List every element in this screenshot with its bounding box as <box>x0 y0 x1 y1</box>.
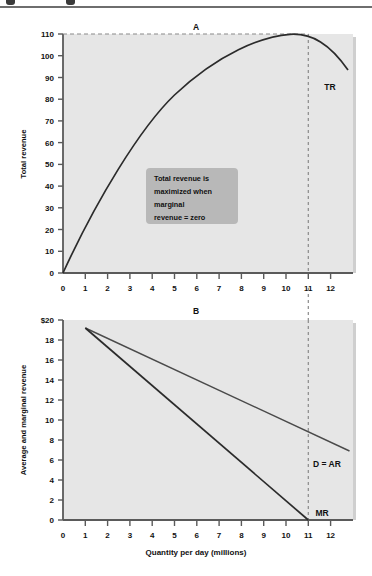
panel-b-x-tick-labels: 0 1 2 3 4 5 6 7 8 9 10 11 12 <box>61 531 336 540</box>
cropped-glyph-2 <box>66 0 75 5</box>
panel-a-ytick-30: 30 <box>45 204 54 213</box>
panel-b-ytick-18: 18 <box>45 336 54 345</box>
panel-b-x-ticks <box>85 520 330 526</box>
panel-b-ytick-12: 12 <box>45 396 54 405</box>
panel-a-letter: A <box>193 22 199 32</box>
panel-b-shadow-right <box>353 323 356 520</box>
panel-b-plot-background <box>63 320 353 520</box>
panel-b-ytick-10: 10 <box>45 416 54 425</box>
panel-b-mr-label: MR <box>315 508 328 518</box>
panel-b-xtick-5: 5 <box>172 531 177 540</box>
panel-b-xtick-6: 6 <box>195 531 200 540</box>
panel-a-ytick-70: 70 <box>45 117 54 126</box>
panel-a-ytick-20: 20 <box>45 226 54 235</box>
panel-b-xtick-7: 7 <box>217 531 222 540</box>
panel-b-xtick-1: 1 <box>83 531 88 540</box>
page-header-rule <box>0 0 372 8</box>
panel-b-xtick-0: 0 <box>61 531 66 540</box>
panel-b-xtick-2: 2 <box>105 531 110 540</box>
panel-a-annotation-line-3: marginal <box>154 200 184 209</box>
panel-a-shadow-right <box>353 37 356 273</box>
panel-b-ytick-0: 0 <box>50 516 55 525</box>
figure-container: A 0 10 20 30 40 50 60 70 <box>0 0 372 576</box>
panel-a-y-tick-labels: 0 10 20 30 40 50 60 70 80 90 100 110 <box>41 30 55 278</box>
panel-a-ytick-100: 100 <box>41 52 55 61</box>
panel-a-annotation-line-4: revenue = zero <box>154 213 206 222</box>
panel-a-ytick-90: 90 <box>45 74 54 83</box>
panel-b-xtick-10: 10 <box>282 531 291 540</box>
panel-a-ytick-40: 40 <box>45 182 54 191</box>
panel-a-ytick-110: 110 <box>41 30 54 39</box>
panel-a-annotation-line-2: maximized when <box>154 187 212 196</box>
panel-b-ytick-4: 4 <box>50 476 55 485</box>
panel-a-annotation-line-1: Total revenue is <box>154 174 209 183</box>
panel-a-tr-label: TR <box>324 82 335 92</box>
panel-b-letter: B <box>193 306 199 316</box>
panel-b-ytick-8: 8 <box>50 436 55 445</box>
panel-a-ytick-0: 0 <box>50 269 55 278</box>
panel-b-xtick-3: 3 <box>128 531 133 540</box>
panel-b-xtick-9: 9 <box>261 531 266 540</box>
panel-b-ytick-20: $20 <box>41 316 55 325</box>
panel-b-y-tick-labels: 0 2 4 6 8 10 12 14 16 18 $20 <box>41 316 55 525</box>
panel-a-ytick-60: 60 <box>45 139 54 148</box>
panel-a-plot-background <box>63 34 353 273</box>
panel-b-demand-label: D = AR <box>313 459 341 469</box>
panel-a-annotation: Total revenue is maximized when marginal… <box>146 168 238 224</box>
panel-b-y-axis-title: Average and marginal revenue <box>19 365 28 475</box>
panel-b-ytick-2: 2 <box>50 496 55 505</box>
panel-b-ytick-14: 14 <box>45 376 54 385</box>
panel-b-ytick-16: 16 <box>45 356 54 365</box>
panel-b-chart: B 0 2 4 6 8 10 12 14 16 18 <box>0 288 372 576</box>
panel-b-ytick-6: 6 <box>50 456 55 465</box>
panel-b-xtick-8: 8 <box>239 531 244 540</box>
panel-a-y-axis-title: Total revenue <box>19 130 28 179</box>
panel-a-ytick-50: 50 <box>45 160 54 169</box>
panel-b-xtick-4: 4 <box>150 531 155 540</box>
panel-b-x-axis-title: Quantity per day (millions) <box>146 548 247 557</box>
panel-a-chart: A 0 10 20 30 40 50 60 70 <box>0 8 372 298</box>
panel-b-xtick-11: 11 <box>304 531 313 540</box>
panel-a-ytick-80: 80 <box>45 95 54 104</box>
panel-a-ytick-10: 10 <box>45 247 54 256</box>
panel-b-xtick-12: 12 <box>326 531 335 540</box>
cropped-glyph-1 <box>6 0 15 5</box>
